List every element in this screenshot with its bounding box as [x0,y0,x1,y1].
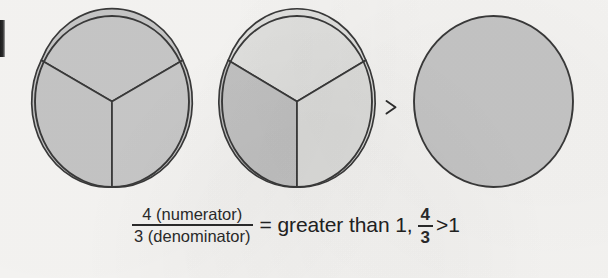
circles-diagram [0,0,608,204]
denominator-label: 3 (denominator) [132,227,252,245]
inline-fraction: 4 3 [418,205,433,247]
numerator-label: 4 (numerator) [140,205,244,223]
equals-phrase: = greater than 1, [260,213,413,237]
greater-than-symbol [387,101,396,114]
slice-whole [414,16,573,187]
inline-numerator: 4 [418,205,433,224]
circle-reference-whole [414,16,573,187]
circle-one-third [219,9,375,187]
scan-edge-artifact [0,20,5,57]
fraction-bar [132,224,252,226]
inline-fraction-bar [418,225,433,227]
fraction-diagram-figure: 4 (numerator) 3 (denominator) = greater … [0,0,608,278]
circle-one-whole [32,9,193,188]
inline-comparison: >1 [436,213,460,237]
labelled-fraction: 4 (numerator) 3 (denominator) [132,205,252,246]
inline-denominator: 3 [418,228,433,247]
fraction-formula: 4 (numerator) 3 (denominator) = greater … [0,204,608,246]
